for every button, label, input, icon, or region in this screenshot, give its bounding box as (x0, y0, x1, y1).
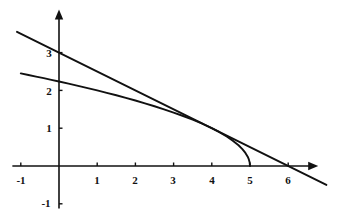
x-axis-tick-label: -1 (16, 175, 25, 186)
y-axis-arrow-icon (55, 10, 63, 20)
curve-plot (21, 73, 250, 166)
x-axis-tick-label: 1 (94, 175, 100, 186)
x-axis-arrow-icon (308, 162, 318, 170)
axes-group (13, 10, 318, 208)
x-axis-tick-label: 2 (132, 175, 138, 186)
y-axis-tick-label: -1 (41, 198, 50, 209)
y-axis-tick-label: 1 (46, 123, 52, 134)
graph-figure: -1123456321-1 (0, 0, 342, 220)
y-axis-tick-label: 3 (46, 48, 52, 59)
x-axis-tick-label: 3 (170, 175, 176, 186)
x-axis-tick-label: 4 (209, 175, 215, 186)
y-axis-tick-label: 2 (46, 86, 52, 97)
x-axis-tick-label: 6 (285, 175, 291, 186)
tangent-line-plot (17, 32, 326, 185)
x-axis-tick-label: 5 (247, 175, 253, 186)
plot-canvas (0, 0, 342, 220)
